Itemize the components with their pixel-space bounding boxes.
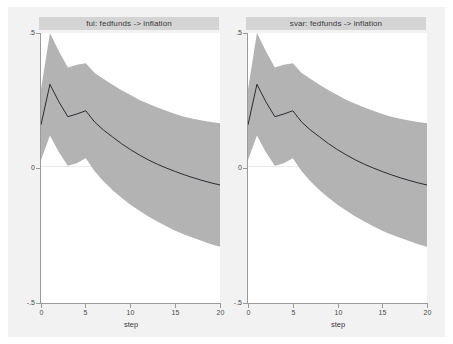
x-tick-2-fui [130,304,131,308]
y-ticklabel-0-svar: .5 [233,29,242,37]
y-ticklabel-2-svar: -.5 [229,299,242,307]
x-ticklabel-3-svar: 15 [375,309,390,317]
x-ticklabel-4-fui: 20 [213,309,228,317]
x-tick-4-fui [220,304,221,308]
x-tick-2-svar [338,304,339,308]
y-tick-0-svar [243,33,247,34]
x-tick-0-fui [41,304,42,308]
irf-plot-svg-svar [248,33,427,303]
x-ticklabel-1-svar: 5 [286,309,301,317]
x-axis-title-svar: step [248,320,428,329]
panel-title-fui: fui: fedfunds -> inflation [86,17,172,30]
x-ticklabel-2-svar: 10 [331,309,346,317]
x-axis-title-fui: step [41,320,221,329]
x-ticklabel-4-svar: 20 [420,309,435,317]
x-tick-4-svar [427,304,428,308]
y-axis-line-svar [247,33,248,303]
y-ticklabel-1-fui: 0 [26,164,35,172]
irf-plot-svg-fui [41,33,220,303]
panel-title-svar: svar: fedfunds -> inflation [290,17,382,30]
x-tick-3-fui [175,304,176,308]
x-ticklabel-2-fui: 10 [123,309,138,317]
panel-title-bar-svar: svar: fedfunds -> inflation [246,17,426,30]
x-ticklabel-1-fui: 5 [78,309,93,317]
y-ticklabel-1-svar: 0 [233,164,242,172]
plot-area-fui [41,33,220,303]
x-tick-1-svar [293,304,294,308]
y-tick-0-fui [36,33,40,34]
irf-figure: fui: fedfunds -> inflation .5 0 -.5 0 5 … [0,0,453,344]
confidence-band-svar [248,33,427,247]
panel-title-bar-fui: fui: fedfunds -> inflation [39,17,219,30]
y-tick-1-fui [36,168,40,169]
x-tick-0-svar [248,304,249,308]
x-tick-1-fui [85,304,86,308]
x-ticklabel-3-fui: 15 [168,309,183,317]
y-ticklabel-0-fui: .5 [26,29,35,37]
y-ticklabel-2-fui: -.5 [22,299,35,307]
x-ticklabel-0-fui: 0 [34,309,49,317]
x-ticklabel-0-svar: 0 [241,309,256,317]
y-tick-1-svar [243,168,247,169]
y-axis-line-fui [40,33,41,303]
confidence-band-fui [41,33,220,247]
plot-area-svar [248,33,427,303]
x-tick-3-svar [382,304,383,308]
